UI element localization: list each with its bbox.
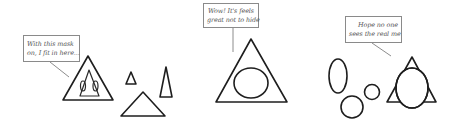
speech-tail-1 xyxy=(50,62,69,77)
speech-bubble-3-line-2: sees the real me xyxy=(349,30,398,39)
large-triangle-character xyxy=(63,56,113,100)
mask-triangle xyxy=(80,70,99,96)
speech-bubble-3: Hope no one sees the real me xyxy=(345,16,402,43)
tall-oval xyxy=(329,59,347,93)
speech-bubble-2-line-2: great not to hide xyxy=(207,16,255,25)
wide-triangle xyxy=(121,92,165,116)
illustration-canvas: With this mask on, I fit in here... Wow!… xyxy=(0,0,455,126)
large-triangle-unmasked xyxy=(216,39,287,102)
panel-2-shapes xyxy=(216,28,287,102)
speech-bubble-1-line-1: With this mask xyxy=(27,40,76,49)
speech-bubble-1: With this mask on, I fit in here... xyxy=(23,35,80,62)
speech-bubble-2: Wow! It's feels great not to hide xyxy=(203,3,259,28)
bottom-circle xyxy=(341,96,363,118)
speech-bubble-3-line-1: Hope no one xyxy=(349,21,398,30)
speech-bubble-2-line-1: Wow! It's feels xyxy=(207,7,255,16)
tall-triangle xyxy=(160,67,172,97)
inner-circle-true-self xyxy=(234,68,268,98)
panel-3-shapes xyxy=(329,43,436,118)
speech-tail-3 xyxy=(372,43,391,56)
speech-bubble-1-line-2: on, I fit in here... xyxy=(27,49,76,58)
small-triangle xyxy=(126,72,136,84)
panel-1-shapes xyxy=(50,56,172,116)
small-circle xyxy=(365,85,380,100)
